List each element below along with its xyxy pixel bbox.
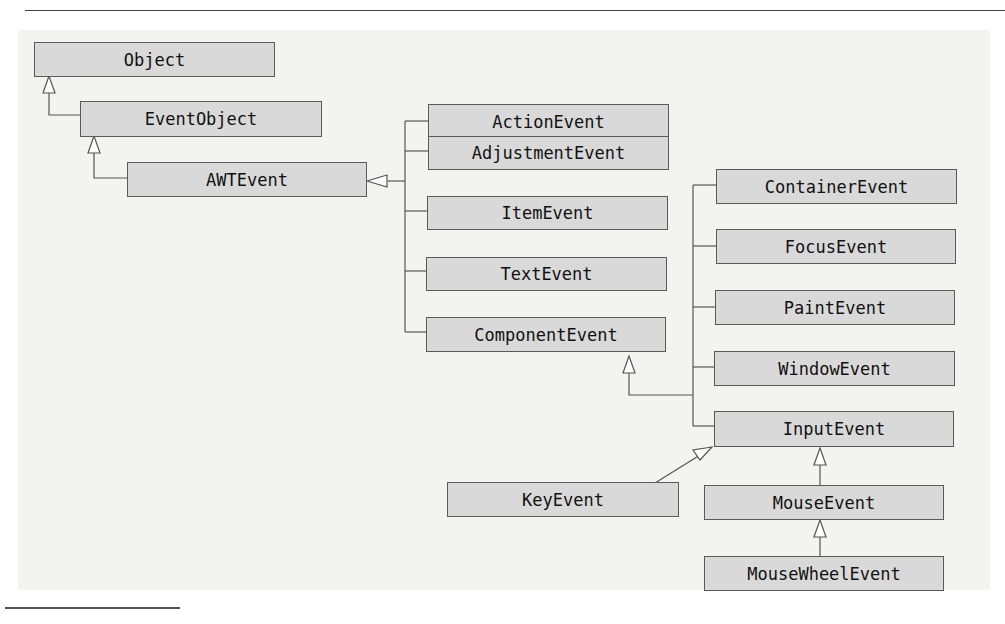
class-action-event: ActionEvent — [428, 104, 669, 139]
class-focus-event: FocusEvent — [716, 229, 956, 264]
class-mouse-event: MouseEvent — [704, 485, 944, 520]
class-component-event: ComponentEvent — [426, 317, 666, 352]
class-key-event: KeyEvent — [447, 482, 679, 517]
class-awt-event: AWTEvent — [127, 162, 367, 197]
class-window-event: WindowEvent — [714, 351, 955, 386]
class-adjustment-event: AdjustmentEvent — [428, 136, 669, 170]
class-event-object: EventObject — [80, 101, 322, 137]
class-input-event: InputEvent — [714, 411, 954, 447]
class-mouse-wheel-event: MouseWheelEvent — [704, 556, 944, 591]
class-container-event: ContainerEvent — [716, 169, 957, 204]
class-object: Object — [34, 42, 275, 77]
class-text-event: TextEvent — [426, 257, 667, 291]
bottom-rule — [5, 607, 180, 609]
class-paint-event: PaintEvent — [715, 290, 955, 325]
class-item-event: ItemEvent — [427, 196, 668, 230]
